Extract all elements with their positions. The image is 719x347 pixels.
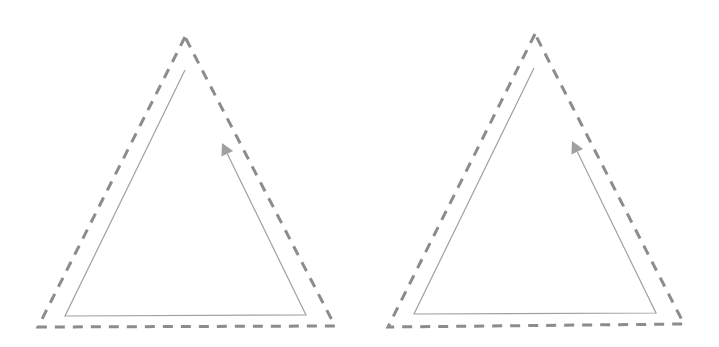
left-panel: [38, 37, 335, 327]
right-outer-dashed-triangle: [388, 34, 684, 327]
right-inner-solid-path: [414, 68, 656, 314]
left-inner-solid-path: [65, 70, 306, 316]
diagram-canvas: [0, 0, 719, 347]
diagram-svg: [0, 0, 719, 347]
right-panel: [388, 34, 684, 327]
